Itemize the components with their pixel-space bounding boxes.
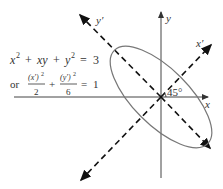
svg-text:2: 2 [71,51,75,60]
x-prime-axis-label: x′ [195,37,204,49]
svg-text:+: + [49,78,55,90]
svg-text:y: y [64,53,71,67]
svg-text:2: 2 [16,51,20,60]
svg-text:2: 2 [73,71,76,77]
svg-text:1: 1 [93,78,99,90]
svg-text:xy: xy [36,53,48,67]
svg-text:+: + [25,53,32,67]
equation-line-2: or (x′) 2 2 + (y′) 2 6 = 1 [10,71,99,97]
angle-arc [165,94,167,98]
svg-text:2: 2 [34,87,39,97]
x-prime-axis-lower [81,97,161,180]
angle-label: 45° [167,86,182,98]
y-prime-axis-label: y′ [95,14,104,26]
y-axis-label: y [165,12,171,24]
x-axis-label: x [204,98,210,110]
svg-text:x: x [9,53,16,67]
svg-text:or: or [10,78,20,90]
svg-text:6: 6 [66,87,71,97]
svg-text:(y′): (y′) [60,73,71,82]
svg-text:3: 3 [93,53,99,67]
equation-line-1: x 2 + xy + y 2 = 3 [9,51,99,67]
svg-text:=: = [80,53,87,67]
svg-text:+: + [53,53,60,67]
rotated-ellipse-diagram: x y x′ y′ 45° x 2 + xy + y 2 = 3 or (x′)… [0,0,223,189]
svg-text:2: 2 [41,71,44,77]
svg-text:(x′): (x′) [28,73,39,82]
svg-text:=: = [81,78,87,90]
